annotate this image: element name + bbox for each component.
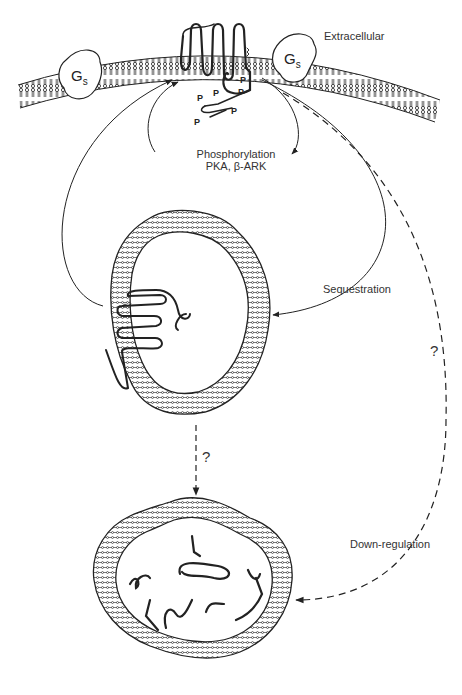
label-phosphorylation-line1: Phosphorylation <box>176 148 296 160</box>
label-phosphorylation-line2: PKA, β-ARK <box>176 160 296 172</box>
sequestration-arrow <box>262 80 386 315</box>
label-extracellular: Extracellular <box>324 30 385 42</box>
gs-label-left: Gs <box>71 67 88 87</box>
label-phosphorylation: Phosphorylation PKA, β-ARK <box>176 148 296 172</box>
sequestered-vesicle <box>111 210 270 414</box>
phospho-site: P <box>231 106 237 116</box>
phospho-site: P <box>238 87 244 97</box>
diagram-canvas <box>0 0 462 695</box>
phosphorylation-arrow-left <box>148 82 178 152</box>
gs-label-right: Gs <box>284 50 301 70</box>
phospho-site: P <box>240 75 246 85</box>
phospho-site: P <box>213 88 219 98</box>
label-question-middle: ? <box>202 448 210 465</box>
lysosome <box>93 498 292 658</box>
down-regulation-arrow <box>283 93 446 600</box>
label-question-right: ? <box>430 342 438 359</box>
phospho-site: P <box>194 117 200 127</box>
phospho-site: P <box>197 93 203 103</box>
label-down-regulation: Down-regulation <box>350 538 430 550</box>
label-sequestration: Sequestration <box>323 283 391 295</box>
